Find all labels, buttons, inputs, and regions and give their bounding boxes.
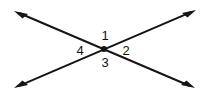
angle-diagram: 1 2 3 4 bbox=[0, 0, 205, 99]
angle-label-4: 4 bbox=[73, 44, 87, 57]
arrowhead-southeast-icon bbox=[181, 81, 195, 89]
angle-label-1: 1 bbox=[98, 29, 112, 42]
intersecting-lines-figure bbox=[0, 0, 205, 99]
intersection-point-dot bbox=[101, 46, 107, 52]
angle-label-3: 3 bbox=[98, 56, 112, 69]
angle-label-2: 2 bbox=[119, 44, 133, 57]
arrowhead-northwest-icon bbox=[14, 11, 28, 19]
arrowhead-northeast-icon bbox=[182, 10, 196, 18]
arrowhead-southwest-icon bbox=[14, 81, 28, 89]
